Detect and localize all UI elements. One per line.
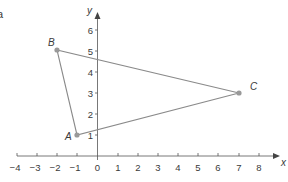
x-tick-label: −4	[10, 162, 21, 173]
x-tick-label: 4	[175, 162, 180, 173]
y-tick-label: 6	[88, 25, 93, 36]
y-tick-label: 3	[88, 88, 93, 99]
y-tick-label: 2	[88, 109, 93, 120]
coordinate-diagram: a x y −4 −3 −2 −1 0 1 2 3 4 5 6 7	[0, 0, 288, 182]
x-tick-label: 1	[115, 162, 120, 173]
point-c-marker	[236, 90, 241, 95]
x-tick-label: 8	[256, 162, 261, 173]
point-b-marker	[54, 47, 59, 52]
x-tick-label: 0	[95, 162, 100, 173]
x-tick-label: −1	[70, 162, 81, 173]
x-tick-label: 2	[135, 162, 140, 173]
x-tick-label: −3	[30, 162, 41, 173]
y-axis-arrow-icon	[95, 12, 101, 19]
x-tick-label: 5	[195, 162, 200, 173]
x-tick-label: 7	[236, 162, 241, 173]
y-tick-labels: 1 2 3 4 5 6	[88, 25, 93, 141]
y-tick-label: 5	[88, 46, 93, 57]
point-b-label: B	[48, 37, 55, 48]
point-c-label: C	[250, 81, 258, 92]
part-label: a	[0, 8, 4, 20]
triangle-abc	[57, 50, 239, 135]
point-a-marker	[74, 132, 79, 137]
x-tick-label: 6	[215, 162, 220, 173]
point-a-label: A	[64, 131, 72, 142]
x-axis-label: x	[280, 157, 287, 168]
x-tick-label: −2	[50, 162, 61, 173]
y-tick-label: 4	[88, 67, 93, 78]
x-tick-label: 3	[155, 162, 160, 173]
x-axis-arrow-icon	[273, 153, 280, 159]
x-ticks	[17, 153, 259, 156]
y-axis-label: y	[86, 5, 93, 16]
x-tick-labels: −4 −3 −2 −1 0 1 2 3 4 5 6 7 8	[10, 162, 262, 173]
